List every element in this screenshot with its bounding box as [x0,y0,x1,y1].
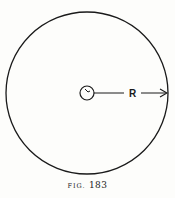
inner-circle [80,86,94,100]
caption-number: 183 [89,180,108,190]
figure-caption: FIG. 183 [0,180,175,190]
inner-mark [85,89,90,92]
caption-prefix: FIG. [67,182,85,190]
radius-label: R [129,88,137,99]
diagram-canvas: R [0,0,175,198]
